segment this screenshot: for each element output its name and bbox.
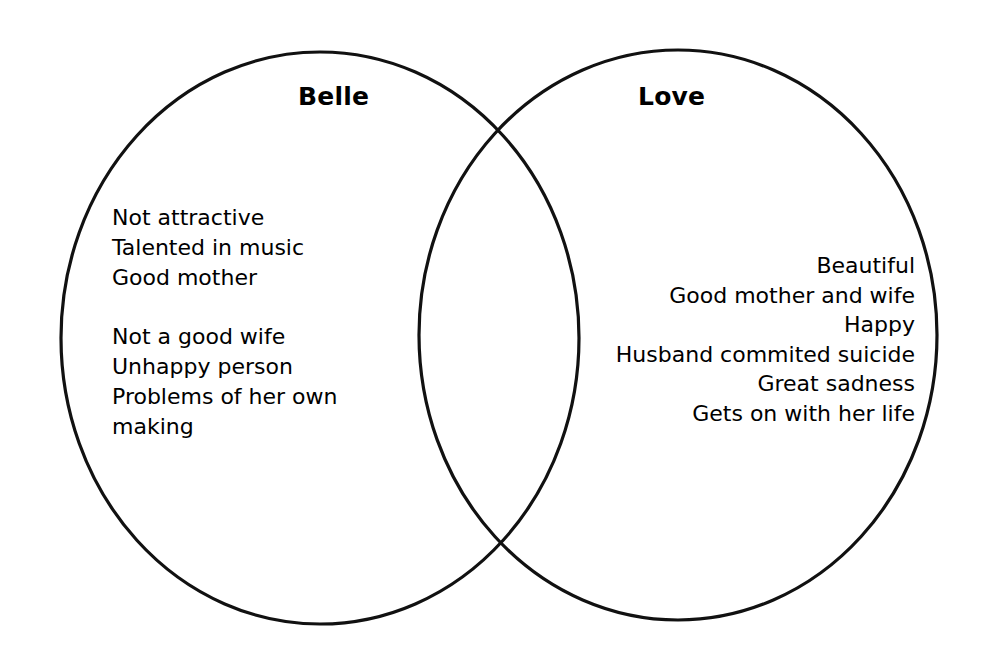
item-list-belle: Not attractive Talented in music Good mo… xyxy=(112,203,338,442)
list-item-spacer xyxy=(112,293,338,322)
item-list-love: Beautiful Good mother and wife Happy Hus… xyxy=(616,251,915,428)
list-item: Gets on with her life xyxy=(616,399,915,429)
list-item: Problems of her own xyxy=(112,382,338,412)
set-title-belle: Belle xyxy=(298,84,369,109)
set-title-love: Love xyxy=(638,84,705,109)
list-item: Not attractive xyxy=(112,203,338,233)
list-item: making xyxy=(112,412,338,442)
list-item: Talented in music xyxy=(112,233,338,263)
list-item: Happy xyxy=(616,310,915,340)
list-item: Not a good wife xyxy=(112,322,338,352)
list-item: Husband commited suicide xyxy=(616,340,915,370)
list-item: Good mother xyxy=(112,263,338,293)
venn-diagram: Belle Love Not attractive Talented in mu… xyxy=(0,0,984,672)
list-item: Good mother and wife xyxy=(616,281,915,311)
list-item: Great sadness xyxy=(616,369,915,399)
list-item: Unhappy person xyxy=(112,352,338,382)
list-item: Beautiful xyxy=(616,251,915,281)
